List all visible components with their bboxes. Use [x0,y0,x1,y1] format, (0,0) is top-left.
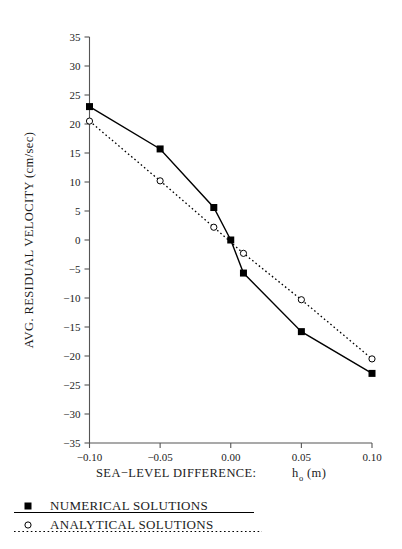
data-point-circle [240,250,246,256]
x-axis-ticks: −0.10−0.050.000.050.10 [77,443,382,463]
y-tick-label: −20 [63,350,81,362]
data-point-square [369,370,376,377]
x-axis-title-main: SEA−LEVEL DIFFERENCE: [96,466,256,480]
data-point-square [25,503,32,510]
data-point-square [157,145,164,152]
y-axis-ticks: 35302520151050−5−10−15−20−25−30−35 [63,31,89,449]
x-axis-title-unit: (m) [307,466,326,480]
y-tick-label: 15 [70,147,82,159]
data-point-circle [298,297,304,303]
data-point-square [210,204,217,211]
y-tick-label: 0 [75,234,81,246]
data-point-square [86,103,93,110]
y-tick-label: −35 [63,437,81,449]
x-axis-title: SEA−LEVEL DIFFERENCE: h o (m) [96,466,326,483]
data-point-circle [86,118,92,124]
x-tick-label: 0.05 [292,451,312,463]
data-point-circle [211,224,217,230]
y-tick-label: −30 [63,408,81,420]
x-axis-title-symbol: h [292,466,299,480]
data-point-circle [369,356,375,362]
legend-item: NUMERICAL SOLUTIONS [14,498,254,513]
y-tick-label: 35 [70,31,82,43]
chart-legend: NUMERICAL SOLUTIONSANALYTICAL SOLUTIONS [14,498,262,532]
y-tick-label: −10 [63,292,81,304]
series-numerical [86,103,376,377]
data-point-square [298,328,305,335]
data-point-square [240,270,247,277]
residual-velocity-chart: 35302520151050−5−10−15−20−25−30−35 −0.10… [0,0,402,549]
y-axis-title: AVG. RESIDUAL VELOCITY (cm/sec) [22,132,36,349]
y-tick-label: 5 [75,205,81,217]
x-tick-label: 0.00 [221,451,241,463]
y-tick-label: 10 [70,176,82,188]
y-tick-label: −25 [63,379,81,391]
y-tick-label: −5 [69,263,81,275]
y-tick-label: 20 [70,118,82,130]
figure-container: 35302520151050−5−10−15−20−25−30−35 −0.10… [0,0,402,549]
data-point-circle [25,522,31,528]
x-tick-label: 0.10 [362,451,382,463]
legend-label: ANALYTICAL SOLUTIONS [50,517,213,532]
legend-label: NUMERICAL SOLUTIONS [50,498,208,513]
x-tick-label: −0.05 [147,451,173,463]
x-axis-title-subscript: o [299,473,304,483]
y-tick-label: 30 [70,60,82,72]
x-tick-label: −0.10 [77,451,103,463]
data-point-circle [157,178,163,184]
y-tick-label: −15 [63,321,81,333]
legend-item: ANALYTICAL SOLUTIONS [14,517,262,532]
y-tick-label: 25 [70,89,82,101]
data-series-layer [86,103,376,377]
